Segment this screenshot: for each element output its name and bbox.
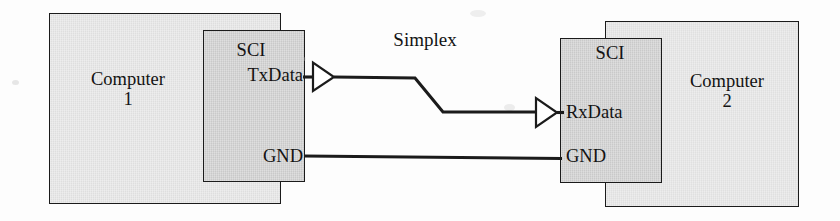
computer2-index-label: 2: [662, 92, 792, 111]
buffer-triangle-icon[interactable]: [313, 63, 334, 92]
computer1-label: Computer: [63, 70, 193, 89]
diagram-canvas: Computer 1 SCI TxData GND Computer 2 SCI…: [0, 0, 840, 221]
computer2-sci-title: SCI: [562, 44, 658, 63]
computer1-pin-gnd-label: GND: [195, 147, 303, 166]
ground-wire: [304, 156, 562, 159]
computer1-index-label: 1: [63, 90, 193, 109]
data-signal-wire: [334, 77, 536, 112]
computer1-sci-title: SCI: [203, 41, 299, 60]
buffer-triangle-icon[interactable]: [536, 98, 557, 127]
simplex-connection-label: Simplex: [360, 30, 490, 49]
computer2-label: Computer: [662, 72, 792, 91]
computer1-pin-txdata-label: TxData: [195, 66, 303, 85]
computer2-pin-rxdata-label: RxData: [566, 103, 666, 122]
computer2-pin-gnd-label: GND: [566, 147, 666, 166]
